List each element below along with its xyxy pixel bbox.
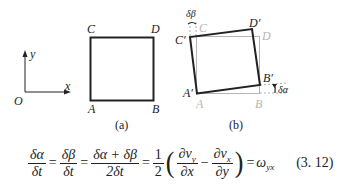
panel-b-caption: (b)	[229, 118, 243, 132]
x-axis-label: x	[64, 79, 71, 93]
equation-3-12: δα δt = δβ δt = δα + δβ 2δt = 1 2 ( ∂vy …	[27, 143, 334, 183]
vertex-d-label: D	[150, 22, 160, 36]
equals-sign: =	[80, 155, 88, 171]
omega-subscript: yx	[266, 162, 274, 172]
partial-v: ∂v	[179, 146, 192, 161]
fraction-one-half: 1 2	[153, 147, 164, 180]
denominator: 2δt	[104, 164, 125, 180]
figure: y x O C D A B (a) δβ δα C D A B C′ D′	[0, 0, 341, 140]
y-axis-label: y	[29, 47, 36, 61]
vertex-b-label: B	[152, 102, 160, 116]
fraction-dvy-dx: ∂vy ∂x	[177, 146, 198, 180]
fraction-dvx-dy: ∂vx ∂y	[212, 146, 233, 180]
equals-sign: =	[49, 155, 57, 171]
rotated-vertex-c-label: C′	[175, 33, 186, 47]
numerator: δα + δβ	[91, 147, 139, 164]
denominator: δt	[30, 164, 44, 180]
denominator: ∂x	[179, 164, 196, 180]
numerator: 1	[153, 147, 164, 164]
coordinate-axes: y x O	[14, 47, 71, 108]
equation-number: (3. 12)	[296, 155, 333, 171]
left-paren: (	[166, 149, 175, 178]
numerator: δα	[28, 147, 46, 164]
panel-b: δβ δα C D A B C′ D′ A′ B′ (b)	[175, 8, 289, 132]
origin-label: O	[14, 94, 23, 108]
subscript: y	[192, 154, 196, 164]
vertex-c-label: C	[87, 22, 96, 36]
numerator: δβ	[60, 147, 77, 164]
omega-symbol: ω	[256, 155, 266, 171]
angle-delta-beta-label: δβ	[186, 8, 196, 19]
denominator: ∂y	[214, 164, 231, 180]
rotated-vertex-a-label: A′	[182, 86, 193, 100]
angle-delta-alpha-label: δα	[278, 84, 289, 95]
subscript: x	[227, 154, 231, 164]
vertex-a-label: A	[87, 102, 96, 116]
partial-v: ∂v	[214, 146, 227, 161]
rotated-vertex-b-label: B′	[263, 71, 273, 85]
fraction-dalpha-dt: δα δt	[28, 147, 46, 180]
orig-vertex-d-label: D	[261, 29, 271, 43]
panel-a: C D A B (a)	[87, 22, 160, 132]
denominator: δt	[61, 164, 75, 180]
fraction-dbeta-dt: δβ δt	[60, 147, 77, 180]
minus-sign: −	[201, 155, 209, 171]
orig-vertex-a-label: A	[195, 97, 204, 111]
right-paren: )	[235, 149, 244, 178]
panel-a-caption: (a)	[115, 118, 128, 132]
denominator: 2	[153, 164, 164, 180]
fraction-sum-over-2dt: δα + δβ 2δt	[91, 147, 139, 180]
equals-sign: =	[142, 155, 150, 171]
numerator: ∂vx	[212, 146, 233, 164]
orig-vertex-c-label: C	[199, 21, 208, 35]
numerator: ∂vy	[177, 146, 198, 164]
rotated-vertex-d-label: D′	[248, 16, 261, 30]
orig-vertex-b-label: B	[255, 97, 263, 111]
equals-sign: =	[246, 155, 254, 171]
